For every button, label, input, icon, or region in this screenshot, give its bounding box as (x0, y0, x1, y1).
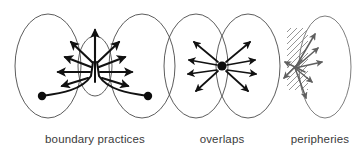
overlap-arrow-up-left (194, 42, 218, 62)
caption-boundary-practices: boundary practices (45, 133, 145, 145)
periphery-ellipse (299, 16, 351, 118)
left-practitioner-dot (38, 92, 46, 100)
panel-peripheries: peripheries (283, 16, 351, 145)
arrow-left-lower (62, 78, 88, 86)
figure-container: boundary practices overlaps (0, 0, 360, 158)
panel-boundary-practices: boundary practices (15, 14, 175, 145)
panel-overlaps: overlaps (164, 14, 280, 145)
overlap-arrow-right-lower (227, 70, 256, 74)
caption-peripheries: peripheries (291, 133, 350, 145)
right-practitioner-dot (144, 92, 152, 100)
overlap-arrow-right-upper (227, 60, 255, 65)
right-community-ellipse (109, 14, 175, 118)
arrow-right-lower (102, 78, 128, 86)
overlap-arrow-left-lower (188, 70, 217, 74)
overlap-arrow-down-right (226, 71, 248, 91)
arrow-up-left (71, 42, 92, 62)
overlap-arrow-down-left (196, 71, 218, 91)
overlap-arrow-up-right (226, 42, 250, 62)
caption-overlaps: overlaps (200, 133, 245, 145)
arrow-up-right (98, 42, 119, 62)
overlap-arrow-left-upper (189, 60, 217, 65)
periphery-hatch-band (283, 24, 311, 94)
overlap-center-dot (217, 61, 226, 70)
left-community-ellipse (15, 14, 81, 118)
diagram-canvas: boundary practices overlaps (0, 0, 360, 158)
